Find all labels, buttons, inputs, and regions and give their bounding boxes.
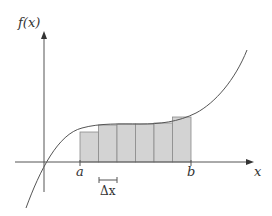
riemann-sum-diagram: f(x) x a b Δx [0,0,272,216]
rectangle-2 [99,125,118,162]
rectangle-1 [80,132,99,162]
rectangle-3 [117,124,136,162]
y-axis-arrow-icon [41,31,47,39]
rectangle-4 [136,124,155,162]
y-axis-label: f(x) [17,15,40,30]
rectangle-6 [173,117,192,162]
interval-end-label: b [187,164,195,179]
delta-x-bracket [99,177,117,183]
x-axis-label: x [254,164,262,179]
delta-x-label: Δx [100,184,116,198]
x-axis-arrow-icon [246,159,254,165]
rectangle-5 [154,123,173,162]
interval-start-label: a [76,164,84,179]
